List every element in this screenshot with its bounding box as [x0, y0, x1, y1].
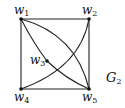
label-w1: w1	[14, 3, 29, 18]
label-w5: w5	[82, 90, 97, 105]
graph-name: G2	[106, 70, 121, 86]
vertex-w3	[45, 59, 49, 63]
label-w2: w2	[82, 3, 97, 18]
graph-diagram: w1 w2 w3 w4 w5 G2	[0, 0, 125, 108]
label-w4: w4	[14, 90, 29, 105]
vertex-w2	[87, 17, 91, 21]
vertex-w1	[19, 17, 23, 21]
